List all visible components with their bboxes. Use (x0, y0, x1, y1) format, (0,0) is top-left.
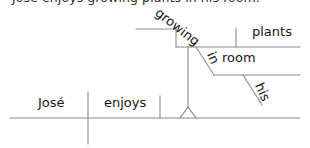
diagram-canvas (0, 0, 310, 148)
label-verb: enjoys (104, 96, 146, 109)
line-gerund-stand-right (188, 107, 196, 118)
label-subject: José (38, 96, 65, 109)
sentence-diagram-root: José enjoys growing plants in his room. … (0, 0, 310, 148)
label-gerund-object: plants (252, 25, 292, 38)
line-gerund-stand-left (180, 107, 188, 118)
label-prep-object: room (222, 51, 256, 64)
